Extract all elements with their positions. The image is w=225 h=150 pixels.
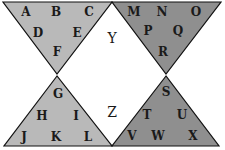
letter-s: S xyxy=(162,85,171,99)
letter-e: E xyxy=(72,26,81,40)
letter-g: G xyxy=(53,87,63,101)
letter-n: N xyxy=(157,5,168,19)
letter-u: U xyxy=(177,108,188,122)
letter-z: Z xyxy=(107,104,117,120)
letter-h: H xyxy=(36,109,47,123)
letter-triangle-diagram: A B C D E F M N O P Q R G H I J K L S T … xyxy=(0,0,225,150)
letter-m: M xyxy=(127,5,140,19)
letter-f: F xyxy=(53,45,62,59)
letter-p: P xyxy=(143,24,152,38)
letter-d: D xyxy=(33,26,43,40)
letter-k: K xyxy=(51,130,62,144)
letter-i: I xyxy=(73,109,79,123)
letter-c: C xyxy=(84,5,94,19)
letter-j: J xyxy=(20,130,27,144)
letter-v: V xyxy=(126,129,137,143)
letter-o: O xyxy=(191,5,201,19)
letter-y: Y xyxy=(106,30,117,46)
letter-x: X xyxy=(188,129,198,143)
letter-r: R xyxy=(158,45,169,59)
letter-b: B xyxy=(51,5,61,19)
letter-l: L xyxy=(84,130,93,144)
letter-a: A xyxy=(20,5,31,19)
letter-q: Q xyxy=(173,24,183,38)
letter-w: W xyxy=(150,129,165,143)
letter-t: T xyxy=(143,108,152,122)
